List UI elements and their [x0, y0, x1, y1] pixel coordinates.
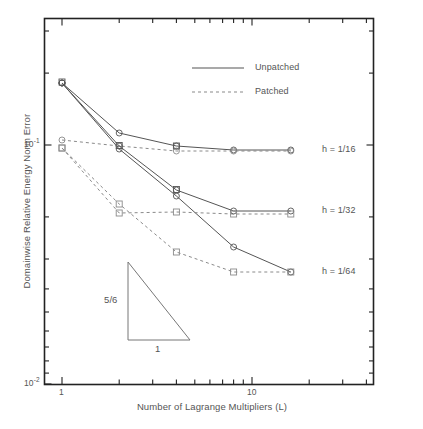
legend-label-unpatched: Unpatched	[255, 62, 299, 72]
series-unpatched-h64	[62, 83, 291, 272]
x-axis-ticks	[62, 19, 366, 385]
series-patched-h64	[62, 148, 291, 272]
y-tick-exponent-2: -2	[34, 376, 40, 383]
series-label-h32: h = 1/32	[322, 205, 356, 215]
slope-triangle-icon	[128, 262, 190, 340]
y-tick-mantissa-1: 10	[24, 139, 34, 149]
series-unpatched-h32	[62, 83, 291, 211]
x-tick-label-1: 1	[59, 387, 64, 397]
series-label-h16: h = 1/16	[322, 144, 356, 154]
slope-triangle-horizontal-label: 1	[155, 343, 160, 354]
markers-unpatched	[59, 80, 294, 275]
y-tick-exponent-1: -1	[34, 137, 40, 144]
series-patched-h32	[62, 148, 291, 214]
y-tick-mantissa-2: 10	[24, 378, 34, 388]
figure-canvas: Domainwise Relative Energy Norm Error Nu…	[0, 0, 423, 429]
series-label-h64: h = 1/64	[322, 266, 356, 276]
y-tick-label-1e-1: 10-1	[24, 139, 40, 149]
y-tick-label-1e-2: 10-2	[24, 378, 40, 388]
slope-triangle-vertical-label: 5/6	[104, 294, 118, 305]
x-axis-title: Number of Lagrange Multipliers (L)	[92, 401, 332, 412]
legend-label-patched: Patched	[255, 86, 289, 96]
markers-patched	[59, 137, 294, 275]
chart-plot-area	[0, 0, 423, 429]
x-tick-label-10: 10	[247, 387, 257, 397]
